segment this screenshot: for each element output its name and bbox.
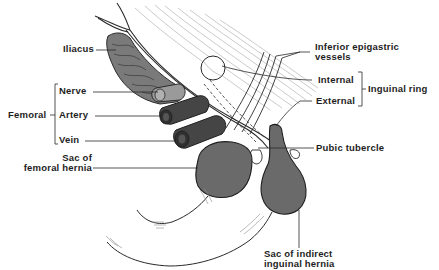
label-pubic-tubercle: Pubic tubercle <box>316 143 384 153</box>
femoral-hernia-sac <box>196 142 252 198</box>
label-femoral: Femoral <box>8 110 46 120</box>
indirect-hernia-sac <box>261 124 306 214</box>
label-external: External <box>316 96 355 106</box>
label-artery: Artery <box>59 110 88 120</box>
hernia-anatomy-diagram: Iliacus Nerve Femoral Artery Vein Sac of… <box>0 0 439 270</box>
internal-ring <box>201 56 225 80</box>
label-iliacus: Iliacus <box>20 44 94 54</box>
iliacus-muscle <box>107 33 185 104</box>
label-sac-femoral-line2: femoral hernia <box>10 163 92 173</box>
label-sac-indirect-line2: inguinal hernia <box>264 259 335 269</box>
label-vein: Vein <box>59 135 79 145</box>
lower-hatching <box>106 188 264 248</box>
label-nerve: Nerve <box>59 86 86 96</box>
label-internal: Internal <box>318 75 354 85</box>
label-inguinal-ring: Inguinal ring <box>368 84 428 94</box>
label-inferior-epigastric-line2: vessels <box>315 52 351 62</box>
lower-contours <box>107 196 272 266</box>
